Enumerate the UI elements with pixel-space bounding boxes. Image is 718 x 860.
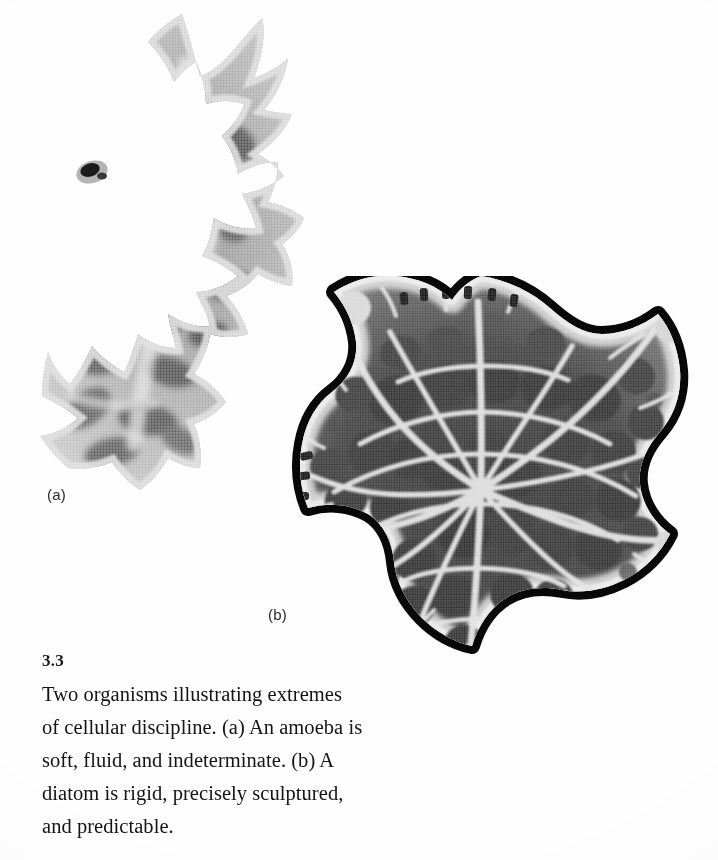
caption-line: of cellular discipline. (a) An amoeba is [42,711,442,744]
caption-line: diatom is rigid, precisely sculptured, [42,777,442,810]
figure-number: 3.3 [42,652,442,669]
amoeba-detached-fragment [73,157,110,188]
caption-line: soft, fluid, and indeterminate. (b) A [42,744,442,777]
panel-label-b: (b) [268,607,287,622]
figure-caption-text: Two organisms illustrating extremes of c… [42,678,442,843]
figure-plate: (a) [0,0,718,860]
panel-label-a: (a) [47,487,66,502]
caption-line: Two organisms illustrating extremes [42,678,442,711]
figure-caption: 3.3 Two organisms illustrating extremes … [42,652,442,843]
caption-line: and predictable. [42,810,442,843]
